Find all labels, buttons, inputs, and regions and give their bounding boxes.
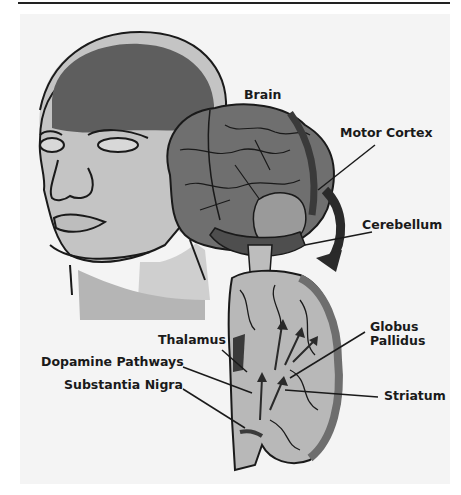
label-substantia-nigra: Substantia Nigra bbox=[64, 378, 183, 392]
label-cerebellum: Cerebellum bbox=[362, 218, 442, 232]
label-brain: Brain bbox=[244, 88, 281, 102]
label-globus: Globus bbox=[370, 320, 418, 334]
arrow-head-icon bbox=[316, 250, 342, 272]
label-pallidus: Pallidus bbox=[370, 334, 425, 348]
anatomy-diagram: Brain Motor Cortex Cerebellum Thalamus G… bbox=[0, 0, 461, 495]
label-motor-cortex: Motor Cortex bbox=[340, 126, 433, 140]
illustration bbox=[0, 0, 461, 495]
label-thalamus: Thalamus bbox=[158, 333, 226, 347]
label-striatum: Striatum bbox=[384, 389, 446, 403]
label-dopamine-pathways: Dopamine Pathways bbox=[41, 355, 184, 369]
